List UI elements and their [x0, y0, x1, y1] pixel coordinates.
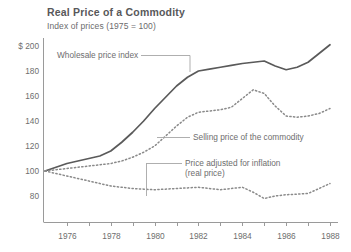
- annotation-leader-lines: [141, 56, 190, 197]
- y-tick-label: 120: [25, 141, 39, 151]
- y-tick-label: 180: [25, 66, 39, 76]
- chart-annotation-label: (real price): [185, 168, 225, 178]
- chart-annotation-label: Wholesale price index: [57, 50, 139, 60]
- y-tick-label: 140: [25, 116, 39, 126]
- chart-annotation-label: Price adjusted for inflation: [185, 158, 281, 168]
- chart-annotation-label: Selling price of the commodity: [193, 132, 305, 142]
- leader-line-wholesale: [141, 56, 190, 73]
- x-axis-tick-labels: 1976197819801982198419861988: [58, 231, 340, 241]
- series-line-1: [45, 45, 330, 171]
- x-tick-label: 1988: [321, 231, 340, 241]
- y-tick-label: 160: [25, 91, 39, 101]
- chart-plot-area: $ 20018016014012010080 19761978198019821…: [0, 0, 351, 252]
- y-tick-label: 80: [30, 191, 40, 201]
- chart-annotations: Wholesale price indexSelling price of th…: [57, 50, 305, 178]
- chart-axes: [44, 38, 339, 223]
- x-tick-label: 1980: [146, 231, 165, 241]
- chart-figure: Real Price of a Commodity Index of price…: [0, 0, 351, 252]
- y-tick-label: $ 200: [18, 41, 39, 51]
- y-axis-tick-labels: $ 20018016014012010080: [18, 41, 39, 201]
- x-tick-label: 1976: [58, 231, 77, 241]
- x-tick-label: 1984: [233, 231, 252, 241]
- x-tick-label: 1978: [102, 231, 121, 241]
- x-tick-label: 1986: [277, 231, 296, 241]
- y-tick-label: 100: [25, 166, 39, 176]
- x-tick-label: 1982: [189, 231, 208, 241]
